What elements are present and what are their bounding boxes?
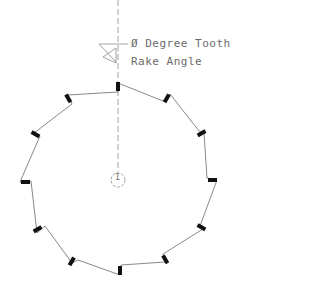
rake-angle-label-line2: Rake Angle	[131, 55, 202, 68]
center-label: 1	[115, 173, 120, 182]
rake-angle-label-line1: Ø Degree Tooth	[131, 37, 231, 50]
rake-angle-symbol	[99, 44, 128, 63]
